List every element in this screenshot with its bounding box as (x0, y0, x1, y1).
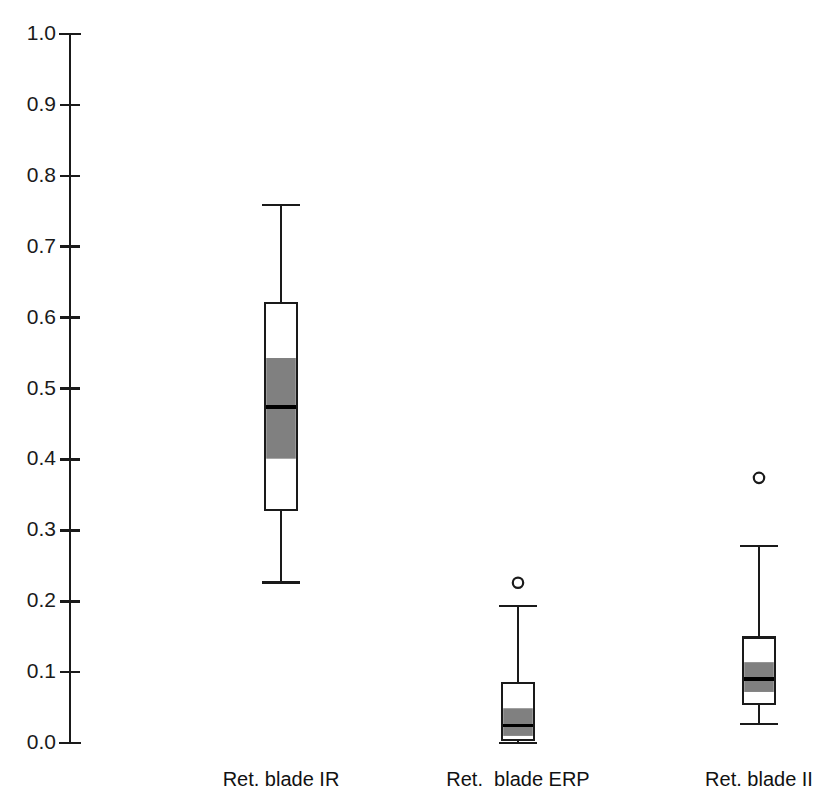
y-tick-label-1.0: 1.0 (0, 21, 56, 45)
notch-band (503, 708, 533, 736)
y-tick-label-0.8: 0.8 (0, 163, 56, 187)
x-category-label-3: Ret. blade II (609, 768, 828, 791)
box-plot-1 (262, 205, 300, 583)
y-axis (59, 34, 81, 743)
notch-band (744, 662, 774, 692)
y-tick-label-0.6: 0.6 (0, 305, 56, 329)
plot-area (0, 0, 828, 804)
y-tick-label-0.2: 0.2 (0, 588, 56, 612)
y-tick-label-0.3: 0.3 (0, 517, 56, 541)
box-plot-3 (740, 473, 778, 724)
outlier-point-1 (513, 578, 523, 588)
y-tick-label-0.1: 0.1 (0, 659, 56, 683)
y-tick-label-0.7: 0.7 (0, 234, 56, 258)
y-tick-label-0.0: 0.0 (0, 730, 56, 754)
box-plot-2 (499, 578, 537, 743)
y-tick-label-0.4: 0.4 (0, 446, 56, 470)
box-plot-figure: 0.00.10.20.30.40.50.60.70.80.91.0 Ret. b… (0, 0, 828, 804)
outlier-point-1 (754, 473, 764, 483)
y-tick-label-0.5: 0.5 (0, 376, 56, 400)
y-tick-label-0.9: 0.9 (0, 92, 56, 116)
